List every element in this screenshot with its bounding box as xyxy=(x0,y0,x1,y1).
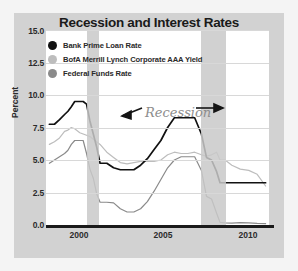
legend-item-ffr[interactable]: Federal Funds Rate xyxy=(48,67,202,80)
legend-item-aaa[interactable]: BofA Merrill Lynch Corporate AAA Yield xyxy=(48,53,202,66)
y-tick-10: 10.0 xyxy=(14,90,44,100)
y-tick-7-5: 7.5 xyxy=(14,123,44,133)
y-tick-15: 15.0 xyxy=(14,26,44,36)
legend-dot-ffr xyxy=(48,69,57,78)
legend-dot-prime xyxy=(48,41,57,50)
chart-screenshot: Recession and Interest Rates Percent 15.… xyxy=(0,0,298,271)
legend-label-aaa: BofA Merrill Lynch Corporate AAA Yield xyxy=(63,55,202,64)
legend-dot-aaa xyxy=(48,55,57,64)
x-axis-line xyxy=(46,225,274,228)
y-tick-12-5: 12.5 xyxy=(14,58,44,68)
legend-label-ffr: Federal Funds Rate xyxy=(63,69,132,78)
y-tick-5: 5.0 xyxy=(14,155,44,165)
series-line-bofa-merrill-lynch-corporate-aaa-yield xyxy=(49,128,265,187)
chart-figure-panel: Recession and Interest Rates Percent 15.… xyxy=(14,13,284,258)
x-tick-2010: 2010 xyxy=(239,230,258,240)
x-axis-tick-labels: 2000 2005 2010 xyxy=(46,230,274,246)
y-tick-0: 0.0 xyxy=(14,220,44,230)
recession-annotation: Recession xyxy=(145,105,211,120)
gridline-2-5 xyxy=(46,193,269,194)
x-tick-2000: 2000 xyxy=(70,230,89,240)
x-tick-2005: 2005 xyxy=(154,230,173,240)
gridline-7-5 xyxy=(46,128,269,129)
gridline-5 xyxy=(46,160,269,161)
chart-title: Recession and Interest Rates xyxy=(14,15,284,30)
gridline-15 xyxy=(46,30,269,31)
chart-legend: Bank Prime Loan Rate BofA Merrill Lynch … xyxy=(48,39,202,81)
legend-item-prime[interactable]: Bank Prime Loan Rate xyxy=(48,39,202,52)
y-tick-2-5: 2.5 xyxy=(14,188,44,198)
y-axis-tick-labels: 15.0 12.5 10.0 7.5 5.0 2.5 0.0 xyxy=(12,13,44,258)
legend-label-prime: Bank Prime Loan Rate xyxy=(63,41,142,50)
gridline-10 xyxy=(46,95,269,96)
